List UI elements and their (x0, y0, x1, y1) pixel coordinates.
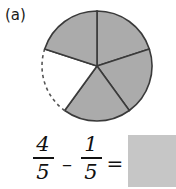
minus-operator: – (56, 154, 78, 174)
part-label: (a) (5, 8, 26, 23)
denominator-5-left: 5 (36, 161, 49, 184)
pie-chart-svg (40, 8, 156, 126)
fraction-bar-left (33, 157, 54, 159)
denominator-5-right: 5 (84, 161, 97, 184)
fraction-one-fifth: 1 5 (78, 133, 104, 184)
fraction-bar-right (81, 157, 102, 159)
fraction-four-fifths: 4 5 (30, 133, 56, 184)
worksheet-problem: (a) 4 5 – 1 5 (0, 0, 176, 189)
pie-chart (40, 8, 156, 126)
answer-input-box[interactable] (128, 135, 176, 187)
numerator-1: 1 (84, 133, 97, 156)
numerator-4: 4 (36, 133, 49, 156)
equals-operator: = (104, 154, 126, 174)
fraction-equation: 4 5 – 1 5 = (30, 133, 176, 189)
